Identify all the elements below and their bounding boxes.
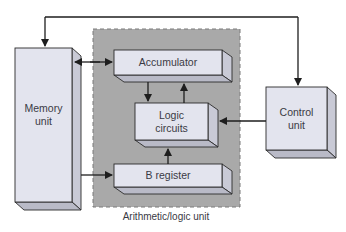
memory-unit-label-line1: Memory <box>25 102 64 114</box>
accumulator-box: Accumulator <box>114 50 232 82</box>
logic-circuits-label-line1: Logic <box>159 109 184 121</box>
alu-caption: Arithmetic/logic unit <box>123 211 210 222</box>
logic-circuits-box: Logic circuits <box>135 103 218 147</box>
memory-unit-label-line2: unit <box>35 115 52 127</box>
control-unit-label-line2: unit <box>288 119 305 131</box>
control-unit-box: Control unit <box>266 87 336 158</box>
b-register-label: B register <box>146 169 191 181</box>
b-register-box: B register <box>114 164 232 194</box>
memory-unit-box: Memory unit <box>15 48 81 210</box>
von-neumann-diagram: Memory unit Accumulator Logic circuits B… <box>0 0 346 232</box>
control-unit-label-line1: Control <box>280 106 314 118</box>
accumulator-label: Accumulator <box>139 56 198 68</box>
logic-circuits-label-line2: circuits <box>155 122 188 134</box>
